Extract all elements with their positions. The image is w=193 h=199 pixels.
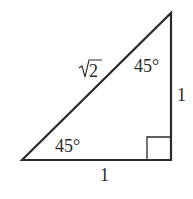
bottom-angle-label: 45° (55, 136, 80, 156)
hypotenuse-label: 2 (79, 60, 102, 81)
vertical-leg-label: 1 (177, 85, 186, 105)
triangle-shape (22, 13, 171, 160)
top-angle-label: 45° (134, 56, 159, 76)
hypotenuse-value: 2 (89, 61, 98, 81)
horizontal-leg-label: 1 (100, 165, 109, 185)
triangle-diagram: 2 45° 45° 1 1 (0, 0, 193, 199)
right-angle-marker (147, 137, 171, 160)
